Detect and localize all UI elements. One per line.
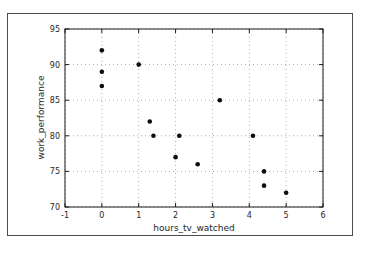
x-tick-label: 2 [173,211,178,220]
data-point [100,84,105,89]
plot-spines [65,29,323,207]
y-axis-label: work_performance [36,58,47,178]
x-tick-label: 1 [136,211,141,220]
x-tick-label: 4 [247,211,252,220]
data-point [100,69,105,74]
chart-screenshot: { "figure": { "frame_border_color": "#4d… [0,0,367,257]
data-point [177,134,182,139]
x-axis-label: hours_tv_watched [94,223,294,234]
y-tick-label: 85 [50,96,60,105]
data-point [147,119,152,124]
y-tick-label: 75 [50,167,60,176]
data-point [151,134,156,139]
y-tick-label: 95 [50,25,60,34]
data-point [251,134,256,139]
data-point [262,169,267,174]
x-tick-label: 0 [99,211,104,220]
y-tick-label: 90 [50,61,60,70]
data-point [262,183,267,188]
data-point [218,98,223,103]
x-tick-label: -1 [61,211,69,220]
scatter-plot: -10123456707580859095 [0,0,367,257]
data-point [173,155,178,160]
x-tick-label: 5 [284,211,289,220]
x-tick-label: 3 [210,211,215,220]
x-tick-label: 6 [320,211,325,220]
data-point [100,48,105,53]
y-tick-label: 70 [50,203,60,212]
data-point [195,162,200,167]
data-point [136,62,141,67]
y-tick-label: 80 [50,132,60,141]
data-point [284,190,289,195]
